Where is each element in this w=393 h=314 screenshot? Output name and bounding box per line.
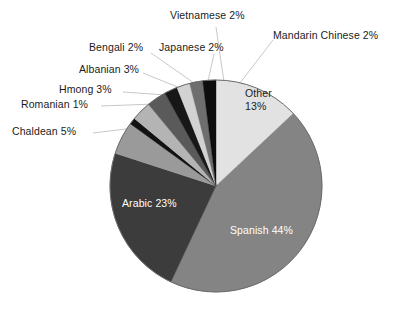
vietnamese-leader	[216, 27, 224, 82]
hmong-leader	[123, 92, 166, 95]
slice-label-bengali: Bengali 2%	[89, 41, 143, 53]
slice-label-other-name-text: Other	[245, 87, 272, 99]
slice-label-albanian: Albanian 3%	[79, 63, 139, 75]
slice-label-other-name: Other	[245, 87, 272, 99]
slice-label-japanese: Japanese 2%	[159, 41, 224, 53]
slice-label-romanian: Romanian 1%	[21, 98, 88, 110]
pie-slice-group	[110, 80, 322, 292]
slice-label-arabic-text: Arabic 23%	[122, 197, 177, 209]
slice-label-other-value-text: 13%	[245, 100, 266, 112]
slice-label-mandarin-chinese: Mandarin Chinese 2%	[273, 29, 378, 41]
slice-label-chaldean-text: Chaldean 5%	[12, 125, 76, 137]
slice-label-vietnamese: Vietnamese 2%	[170, 9, 245, 21]
albanian-leader	[143, 73, 180, 88]
slice-label-japanese-text: Japanese 2%	[159, 41, 224, 53]
slice-label-hmong-text: Hmong 3%	[59, 83, 112, 95]
japanese-leader	[208, 54, 214, 81]
slice-label-hmong: Hmong 3%	[59, 83, 112, 95]
slice-label-spanish-text: Spanish 44%	[230, 224, 293, 236]
slice-label-chaldean: Chaldean 5%	[12, 125, 76, 137]
pie-chart-figure: Vietnamese 2% Mandarin Chinese 2% Bengal…	[0, 0, 393, 314]
slice-label-arabic: Arabic 23%	[122, 197, 177, 209]
slice-label-albanian-text: Albanian 3%	[79, 63, 139, 75]
slice-label-spanish: Spanish 44%	[230, 224, 293, 236]
slice-label-mandarin-chinese-text: Mandarin Chinese 2%	[273, 29, 378, 41]
slice-label-romanian-text: Romanian 1%	[21, 98, 88, 110]
slice-label-bengali-text: Bengali 2%	[89, 41, 143, 53]
slice-label-other-value: 13%	[245, 100, 266, 112]
mandarin-leader	[240, 40, 273, 83]
slice-label-vietnamese-text: Vietnamese 2%	[170, 9, 245, 21]
